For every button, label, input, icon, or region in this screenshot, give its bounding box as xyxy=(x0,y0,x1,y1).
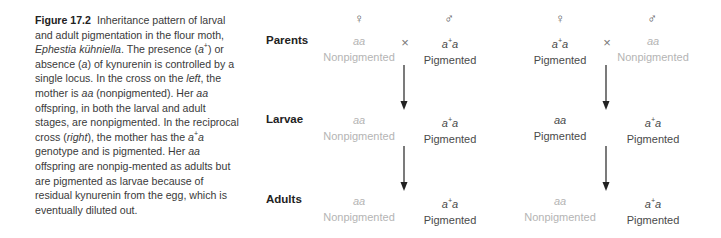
figure-caption: Figure 17.2Inheritance pattern of larval… xyxy=(35,13,240,217)
genotype: a+a xyxy=(603,112,703,131)
left-parent-female: aaNonpigmented xyxy=(309,33,409,65)
row-label-parents: Parents xyxy=(266,34,308,46)
genotype: a+a xyxy=(510,33,610,52)
arrow-down-icon xyxy=(399,146,409,191)
male-symbol-left: ♂ xyxy=(439,11,459,26)
right-larvae-a-plus-a: a+aPigmented xyxy=(603,112,703,147)
phenotype: Nonpigmented xyxy=(309,49,409,65)
genotype: aa xyxy=(309,112,409,128)
phenotype: Pigmented xyxy=(400,52,500,68)
left-parent-male: a+aPigmented xyxy=(400,33,500,68)
arrow-down-icon xyxy=(601,65,611,110)
genotype: aa xyxy=(510,193,610,209)
female-symbol-right: ♀ xyxy=(550,11,570,26)
genotype: aa xyxy=(309,33,409,49)
phenotype: Pigmented xyxy=(400,131,500,147)
phenotype: Pigmented xyxy=(510,52,610,68)
male-symbol-right: ♂ xyxy=(642,11,662,26)
caption-body: Inheritance pattern of larval and adult … xyxy=(35,14,239,216)
genotype: a+a xyxy=(400,193,500,212)
arrow-down-icon xyxy=(601,146,611,191)
left-adults-aa: aaNonpigmented xyxy=(309,193,409,225)
phenotype: Nonpigmented xyxy=(510,209,610,225)
phenotype: Nonpigmented xyxy=(309,209,409,225)
left-adults-a-plus-a: a+aPigmented xyxy=(400,193,500,228)
phenotype: Nonpigmented xyxy=(603,49,703,65)
figure-label: Figure 17.2 xyxy=(35,14,91,26)
row-label-larvae: Larvae xyxy=(266,113,303,125)
right-parent-male: aaNonpigmented xyxy=(603,33,703,65)
left-larvae-aa: aaNonpigmented xyxy=(309,112,409,144)
phenotype: Pigmented xyxy=(510,128,610,144)
female-symbol-left: ♀ xyxy=(349,11,369,26)
genotype: aa xyxy=(309,193,409,209)
genotype: aa xyxy=(510,112,610,128)
genotype: a+a xyxy=(400,33,500,52)
right-parent-female: a+aPigmented xyxy=(510,33,610,68)
phenotype: Pigmented xyxy=(603,131,703,147)
row-label-adults: Adults xyxy=(266,193,302,205)
phenotype: Pigmented xyxy=(603,212,703,228)
right-adults-aa: aaNonpigmented xyxy=(510,193,610,225)
arrow-down-icon xyxy=(399,65,409,110)
phenotype: Pigmented xyxy=(400,212,500,228)
genotype: a+a xyxy=(603,193,703,212)
genotype: aa xyxy=(603,33,703,49)
right-adults-a-plus-a: a+aPigmented xyxy=(603,193,703,228)
left-larvae-a-plus-a: a+aPigmented xyxy=(400,112,500,147)
genotype: a+a xyxy=(400,112,500,131)
phenotype: Nonpigmented xyxy=(309,128,409,144)
right-larvae-aa: aaPigmented xyxy=(510,112,610,144)
